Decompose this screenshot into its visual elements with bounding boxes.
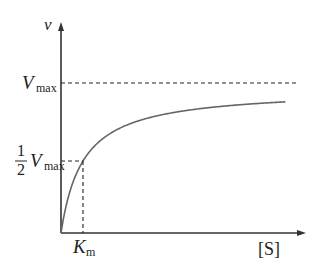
- vmax-label-v: V: [22, 72, 36, 93]
- km-label-sub: m: [86, 245, 96, 259]
- mm-curve: [61, 102, 285, 233]
- half-fraction-denominator: 2: [17, 161, 25, 178]
- x-axis-arrow-icon: [297, 230, 306, 236]
- half-fraction-numerator: 1: [17, 142, 25, 159]
- y-axis-arrow-icon: [58, 22, 64, 31]
- y-axis-label: v: [44, 15, 52, 34]
- michaelis-menten-diagram: vVmax12VmaxKm[S]: [0, 0, 324, 269]
- half-vmax-label-v: V: [30, 150, 44, 171]
- km-label-k: K: [72, 236, 87, 257]
- vmax-label-sub: max: [36, 81, 57, 95]
- x-axis-label: [S]: [258, 239, 280, 259]
- chart-svg: vVmax12VmaxKm[S]: [0, 0, 324, 269]
- half-vmax-label-sub: max: [44, 159, 65, 173]
